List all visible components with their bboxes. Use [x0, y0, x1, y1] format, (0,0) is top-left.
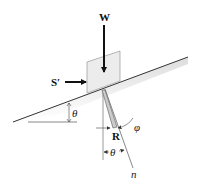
normal-angle-label: θ: [110, 146, 116, 158]
normal-angle-right-arrow: [119, 150, 124, 151]
reaction-label: R: [112, 130, 121, 142]
friction-angle-label: φ: [134, 121, 140, 133]
incline-free-body-diagram: θ W S′ n R φ θ: [0, 0, 201, 191]
normal-axis-label: n: [131, 168, 137, 180]
incline-angle-label: θ: [72, 107, 78, 119]
weight-label: W: [99, 11, 110, 23]
friction-angle-arc: [118, 118, 133, 128]
push-force-label: S′: [51, 76, 60, 88]
reaction-force-arrow: [102, 90, 117, 128]
